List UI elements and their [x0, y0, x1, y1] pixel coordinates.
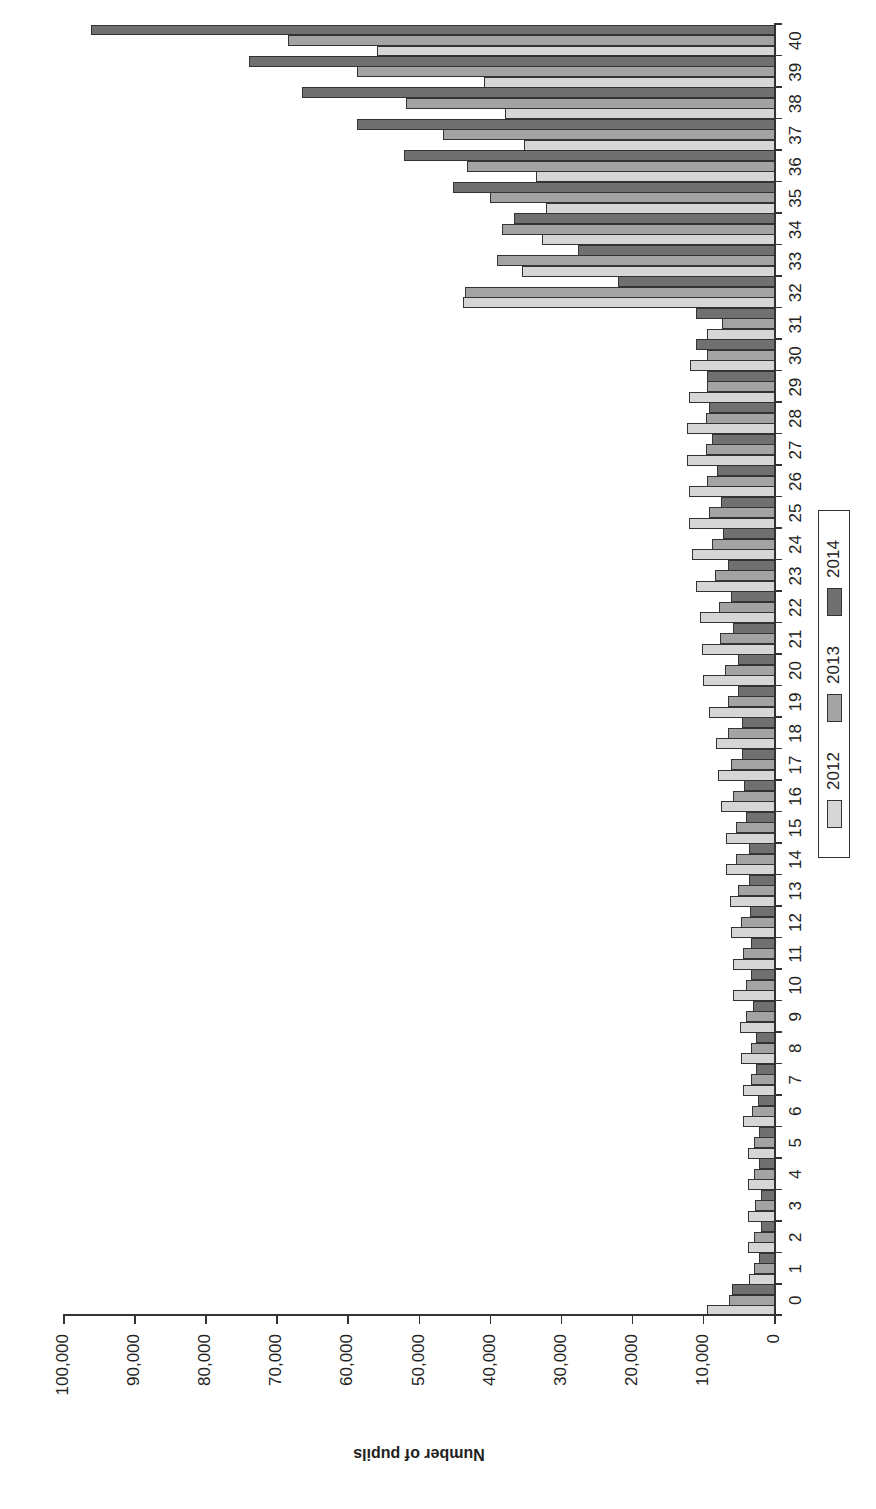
bar-2014-cat-21 — [733, 623, 774, 634]
bar-2013-cat-17 — [731, 759, 774, 770]
bar-2014-cat-16 — [744, 780, 774, 791]
bar-2013-cat-23 — [715, 570, 774, 581]
x-tick — [774, 244, 782, 246]
bar-2014-cat-14 — [749, 843, 774, 854]
x-tick — [774, 1283, 782, 1285]
legend-label: 2013 — [824, 646, 844, 684]
bar-2012-cat-27 — [687, 455, 774, 466]
bar-2013-cat-12 — [741, 917, 774, 928]
y-axis-title: Number of pupils — [353, 1445, 485, 1463]
x-tick — [774, 685, 782, 687]
bar-2014-cat-5 — [759, 1127, 774, 1138]
x-tick — [774, 779, 782, 781]
bar-2014-cat-6 — [758, 1095, 774, 1106]
y-tick-label: 80,000 — [195, 1334, 215, 1434]
bar-2013-cat-9 — [746, 1011, 774, 1022]
bar-2014-cat-4 — [759, 1158, 774, 1169]
bar-2012-cat-29 — [689, 392, 774, 403]
bar-2012-cat-10 — [733, 990, 774, 1001]
bar-2013-cat-39 — [357, 67, 774, 78]
legend-swatch-2012 — [827, 800, 842, 828]
bar-2013-cat-34 — [502, 224, 774, 235]
x-tick — [774, 968, 782, 970]
bar-2014-cat-12 — [750, 906, 774, 917]
x-tick — [774, 622, 782, 624]
chart-stage: Number of pupils 201220132014 0123456789… — [0, 0, 876, 1509]
bar-2014-cat-1 — [759, 1253, 774, 1264]
bar-2012-cat-33 — [522, 266, 774, 277]
y-tick-label: 40,000 — [480, 1334, 500, 1434]
bar-2013-cat-31 — [722, 318, 774, 329]
bar-2012-cat-32 — [463, 297, 774, 308]
bar-2012-cat-5 — [748, 1148, 774, 1159]
bar-2014-cat-29 — [707, 371, 774, 382]
bar-2014-cat-31 — [696, 308, 774, 319]
bar-2012-cat-12 — [731, 927, 774, 938]
bar-2012-cat-4 — [748, 1179, 774, 1190]
x-tick — [774, 937, 782, 939]
bar-2013-cat-16 — [733, 791, 774, 802]
bar-2014-cat-8 — [756, 1032, 774, 1043]
bar-2014-cat-19 — [738, 686, 774, 697]
bar-2013-cat-5 — [754, 1137, 774, 1148]
y-tick — [63, 1316, 65, 1324]
bar-2014-cat-18 — [742, 717, 774, 728]
legend-label: 2012 — [824, 752, 844, 790]
bar-2014-cat-24 — [723, 528, 774, 539]
bar-2013-cat-38 — [406, 98, 774, 109]
bar-2012-cat-18 — [716, 738, 774, 749]
x-tick — [774, 1126, 782, 1128]
bar-2012-cat-38 — [505, 108, 774, 119]
bar-2014-cat-27 — [712, 434, 774, 445]
x-tick — [774, 307, 782, 309]
bar-2013-cat-1 — [754, 1263, 774, 1274]
y-tick-label: 70,000 — [266, 1334, 286, 1434]
bar-2014-cat-37 — [357, 119, 774, 130]
x-tick — [774, 527, 782, 529]
x-tick — [774, 401, 782, 403]
y-tick — [632, 1316, 634, 1324]
bar-2013-cat-15 — [736, 822, 774, 833]
legend-item-2014: 2014 — [824, 540, 844, 616]
x-tick — [774, 496, 782, 498]
x-tick — [774, 905, 782, 907]
x-tick — [774, 1031, 782, 1033]
bar-2014-cat-40 — [91, 25, 774, 36]
x-tick — [774, 590, 782, 592]
bar-2014-cat-2 — [761, 1221, 774, 1232]
bar-2012-cat-7 — [743, 1085, 774, 1096]
bar-2012-cat-39 — [484, 77, 774, 88]
x-tick — [774, 275, 782, 277]
x-tick — [774, 1157, 782, 1159]
bar-2013-cat-26 — [707, 476, 774, 487]
bar-2013-cat-19 — [728, 696, 774, 707]
bar-2012-cat-22 — [700, 612, 774, 623]
bar-2012-cat-35 — [546, 203, 774, 214]
bar-2014-cat-33 — [578, 245, 774, 256]
y-tick — [276, 1316, 278, 1324]
bar-2013-cat-14 — [736, 854, 774, 865]
bar-2013-cat-22 — [719, 602, 774, 613]
x-tick — [774, 1189, 782, 1191]
bar-2012-cat-3 — [748, 1211, 774, 1222]
x-tick — [774, 748, 782, 750]
legend: 201220132014 — [818, 510, 850, 858]
bar-2014-cat-22 — [731, 591, 774, 602]
bar-2013-cat-29 — [707, 381, 774, 392]
bar-2012-cat-8 — [741, 1053, 774, 1064]
bar-2013-cat-3 — [755, 1200, 774, 1211]
bar-2012-cat-34 — [542, 234, 774, 245]
bar-2013-cat-36 — [467, 161, 774, 172]
bar-2014-cat-25 — [721, 497, 774, 508]
bar-2014-cat-10 — [751, 969, 774, 980]
x-tick — [774, 86, 782, 88]
y-tick-label: 90,000 — [124, 1334, 144, 1434]
y-tick-label: 20,000 — [622, 1334, 642, 1434]
bar-2013-cat-0 — [729, 1295, 774, 1306]
bar-2013-cat-30 — [707, 350, 774, 361]
bar-2013-cat-27 — [706, 444, 774, 455]
bar-2014-cat-17 — [742, 749, 774, 760]
legend-swatch-2014 — [827, 588, 842, 616]
y-tick — [703, 1316, 705, 1324]
bar-2013-cat-24 — [712, 539, 774, 550]
